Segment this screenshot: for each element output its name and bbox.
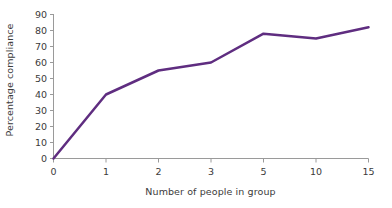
- data-series-line: [54, 27, 369, 158]
- y-axis-tick-label: 0: [41, 153, 47, 164]
- y-axis-tick-label: 50: [35, 73, 47, 84]
- data-series-layer: [54, 27, 369, 158]
- y-axis-tick-label: 80: [35, 25, 47, 36]
- y-axis-tick-label: 90: [35, 9, 47, 20]
- y-axis-tick-label: 70: [35, 41, 47, 52]
- x-axis-tick-label: 2: [155, 166, 161, 177]
- plot-area: 0102030405060708090 012351015: [0, 0, 392, 208]
- y-axis-tick-label: 10: [35, 137, 47, 148]
- x-axis-tick-label: 5: [260, 166, 266, 177]
- y-axis-tick-label: 20: [35, 121, 47, 132]
- y-axis-ticks: 0102030405060708090: [35, 9, 54, 164]
- line-chart: Percentage compliance Number of people i…: [0, 0, 392, 208]
- x-axis-tick-label: 1: [103, 166, 109, 177]
- y-axis-tick-label: 40: [35, 89, 47, 100]
- y-axis-tick-label: 30: [35, 105, 47, 116]
- x-axis-tick-label: 3: [208, 166, 214, 177]
- x-axis-tick-label: 15: [362, 166, 374, 177]
- y-axis-tick-label: 60: [35, 57, 47, 68]
- x-axis-tick-label: 0: [50, 166, 56, 177]
- x-axis-tick-label: 10: [310, 166, 322, 177]
- x-axis-ticks: 012351015: [50, 159, 374, 177]
